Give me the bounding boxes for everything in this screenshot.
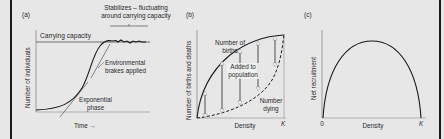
figure-canvas: (a) Number of individuals Carrying capac… <box>0 0 444 139</box>
dying-label-line2: dying <box>263 105 279 113</box>
stabilizes-label-line1: Stabilizes – fluctuating <box>104 4 168 12</box>
panel-b-label: (b) <box>186 11 194 19</box>
dying-label-line1: Number <box>260 97 284 104</box>
population-growth-figure: (a) Number of individuals Carrying capac… <box>0 0 444 139</box>
panel-b-x-label: Density <box>235 122 257 130</box>
panel-c-k-tick: K <box>419 120 424 127</box>
panel-b-y-label: Number of births and deaths <box>185 41 192 120</box>
environmental-label-line2: brakes applied <box>105 67 146 75</box>
panel-c: (c) Net recruitment 0 Density K <box>304 11 426 130</box>
births-label-line1: Number of <box>215 39 245 46</box>
births-label-line2: births <box>222 47 238 54</box>
stabilizes-bracket <box>110 24 148 26</box>
environmental-pointer <box>98 62 104 68</box>
added-label-line2: population <box>228 71 258 79</box>
panel-a: (a) Number of individuals Carrying capac… <box>22 4 172 129</box>
stabilizes-label-line2: around carrying capacity <box>101 12 171 20</box>
panel-c-label: (c) <box>304 11 312 19</box>
panel-a-y-label: Number of individuals <box>24 47 31 108</box>
panel-a-label: (a) <box>22 11 30 19</box>
panel-c-x-label: Density <box>363 122 385 130</box>
added-label-line1: Added to <box>230 63 256 70</box>
panel-b: (b) Number of births and deaths <box>185 11 286 130</box>
panel-b-k-tick: K <box>281 120 286 127</box>
exponential-label-line1: Exponential <box>79 96 112 104</box>
carrying-capacity-label: Carrying capacity <box>40 32 92 40</box>
exponential-label-line2: phase <box>87 104 105 112</box>
net-recruitment-curve <box>323 41 421 118</box>
panel-a-x-label: Time → <box>74 122 96 129</box>
panel-c-zero-tick: 0 <box>320 120 324 127</box>
panel-c-y-label: Net recruitment <box>310 57 317 100</box>
environmental-label-line1: Environmental <box>105 59 145 66</box>
